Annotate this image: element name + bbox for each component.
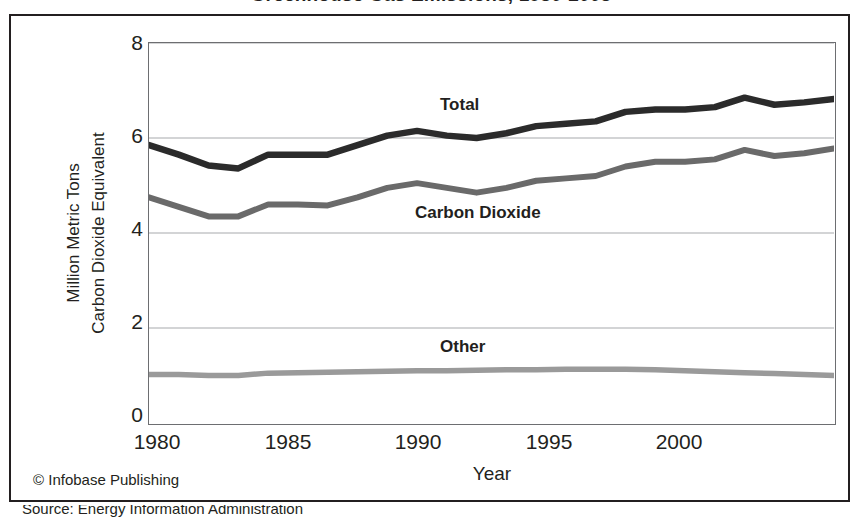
gridlines [149, 43, 834, 328]
x-tick-2000: 2000 [639, 430, 719, 454]
x-tick-1980: 1980 [117, 430, 197, 454]
figure-title-strip: Greenhouse Gas Emissions, 1980-2003 [0, 0, 862, 15]
page-title: Greenhouse Gas Emissions, 1980-2003 [0, 0, 862, 6]
x-tick-1990: 1990 [378, 430, 458, 454]
x-axis-title: Year [148, 463, 836, 485]
plot-area: Total Carbon Dioxide Other [148, 42, 836, 425]
x-tick-1985: 1985 [248, 430, 328, 454]
series-label-total: Total [440, 95, 479, 115]
series-line-total [149, 98, 834, 169]
x-tick-1995: 1995 [509, 430, 589, 454]
y-tick-4: 4 [109, 218, 143, 239]
series-label-other: Other [440, 337, 485, 357]
series-label-carbon-dioxide: Carbon Dioxide [415, 203, 541, 223]
source-note: Source: Energy Information Administratio… [22, 505, 303, 517]
source-note-strip: Source: Energy Information Administratio… [0, 505, 862, 521]
series-line-other [149, 369, 834, 375]
y-tick-8: 8 [109, 32, 143, 53]
y-axis-tick-labels: 8 6 4 2 0 [107, 16, 143, 456]
y-axis-title-line-1: Million Metric Tons [61, 58, 86, 408]
x-axis-tick-labels: 1980 1985 1990 1995 2000 [148, 430, 848, 460]
chart-frame: Million Metric Tons Carbon Dioxide Equiv… [9, 14, 850, 502]
y-tick-6: 6 [109, 125, 143, 146]
copyright-credit: © Infobase Publishing [33, 471, 179, 488]
y-tick-2: 2 [109, 311, 143, 332]
chart-canvas [149, 43, 834, 423]
y-tick-0: 0 [109, 404, 143, 425]
series-paths [149, 98, 834, 376]
